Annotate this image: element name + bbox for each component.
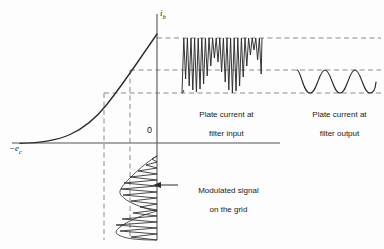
grid-signal-caption: Modulated signal on the grid [181, 176, 267, 224]
filter-output-caption: Plate current at filter output [290, 100, 380, 148]
transfer-characteristic-curve [20, 34, 157, 143]
filter-output-caption-line1: Plate current at [312, 110, 366, 119]
x-axis-label: −ec [9, 144, 22, 156]
grid-modulated-signal [116, 156, 157, 240]
grid-signal-caption-line1: Modulated signal [198, 186, 258, 195]
filter-input-waveform [182, 38, 262, 93]
origin-label: 0 [147, 126, 152, 136]
figure-canvas: ib 0 −ec Plate current at filter input P… [0, 0, 384, 249]
filter-input-caption: Plate current at filter input [177, 100, 267, 148]
y-axis-label: ib [160, 9, 166, 21]
filter-input-caption-line1: Plate current at [199, 110, 253, 119]
filter-output-waveform [297, 70, 376, 93]
projection-lines [104, 70, 130, 240]
filter-input-caption-line2: filter input [209, 129, 244, 138]
filter-output-caption-line2: filter output [320, 129, 360, 138]
grid-signal-caption-line2: on the grid [210, 205, 248, 214]
